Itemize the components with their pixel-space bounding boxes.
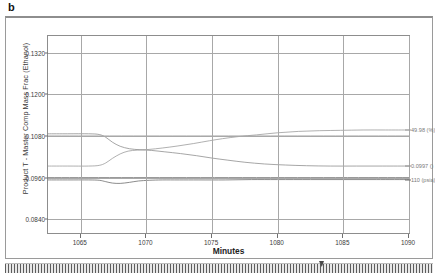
- x-gridline: [343, 36, 344, 233]
- x-tick-mark: [211, 234, 212, 238]
- series-curves: [48, 36, 409, 233]
- scrollbar-thumb[interactable]: [319, 261, 324, 267]
- y-gridline: [48, 178, 409, 179]
- x-axis-title: Minutes: [47, 246, 410, 256]
- x-tick-mark: [80, 234, 81, 238]
- x-tick-label: 1075: [204, 239, 218, 246]
- x-tick-label: 1070: [138, 239, 152, 246]
- horizontal-scrollbar[interactable]: [5, 263, 433, 273]
- series-line: [48, 180, 409, 184]
- plot-area[interactable]: 0.08400.09600.10800.12000.1320: [47, 35, 410, 234]
- x-gridline: [278, 36, 279, 233]
- panel-letter: b: [8, 1, 15, 13]
- x-gridline: [146, 36, 147, 233]
- series-annotation-label: 49.98 (%): [411, 127, 435, 133]
- plot-window: Product T - Master Comp Mass Frac (Ethan…: [5, 16, 433, 259]
- x-gridline: [212, 36, 213, 233]
- y-tick-label: 0.0840: [25, 216, 45, 223]
- series-line: [48, 134, 409, 166]
- x-gridline: [409, 36, 410, 233]
- y-gridline: [48, 53, 409, 54]
- x-tick-mark: [342, 234, 343, 238]
- y-tick-label: 0.1320: [25, 49, 45, 56]
- x-tick-label: 1080: [270, 239, 284, 246]
- series-annotation-label: 110 (psia): [411, 177, 435, 183]
- x-tick-label: 1065: [73, 239, 87, 246]
- x-tick-mark: [145, 234, 146, 238]
- x-tick-mark: [277, 234, 278, 238]
- y-gridline: [48, 94, 409, 95]
- x-tick-mark: [408, 234, 409, 238]
- x-tick-label: 1085: [335, 239, 349, 246]
- y-tick-label: 0.1080: [25, 132, 45, 139]
- x-tick-label: 1090: [401, 239, 415, 246]
- y-tick-label: 0.0960: [25, 174, 45, 181]
- series-annotation-label: 0.0997 (): [411, 163, 433, 169]
- y-gridline: [48, 219, 409, 220]
- y-tick-label: 0.1200: [25, 91, 45, 98]
- y-gridline: [48, 136, 409, 137]
- x-gridline: [81, 36, 82, 233]
